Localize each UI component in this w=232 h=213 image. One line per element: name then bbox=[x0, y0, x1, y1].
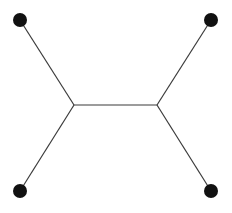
leaf-top-right-node bbox=[204, 13, 218, 27]
leaf-bottom-right-node bbox=[204, 184, 218, 198]
edges-group bbox=[20, 20, 211, 191]
leaf-top-left-node bbox=[13, 13, 27, 27]
tree-diagram bbox=[0, 0, 232, 213]
leaf-bottom-left-node bbox=[13, 184, 27, 198]
edge-leaf-top-left-to-internal-left bbox=[20, 20, 74, 105]
edge-internal-right-to-leaf-top-right bbox=[157, 20, 211, 105]
edge-leaf-bottom-left-to-internal-left bbox=[20, 105, 74, 191]
edge-internal-right-to-leaf-bottom-right bbox=[157, 105, 211, 191]
